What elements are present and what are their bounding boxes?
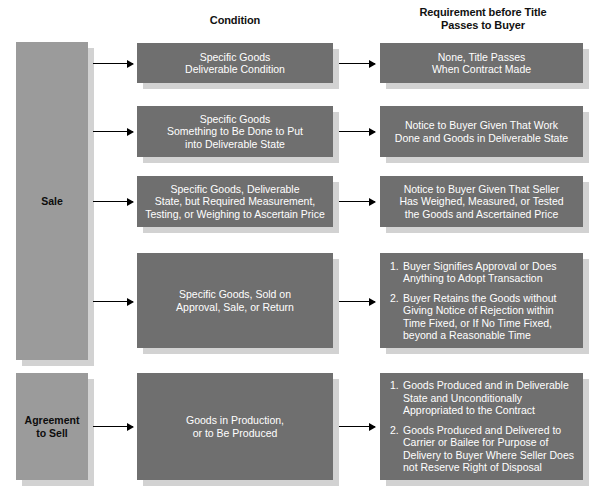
column-header-requirement-line2: Passes to Buyer <box>386 19 580 32</box>
arrow-category-to-condition-4 <box>93 301 133 302</box>
requirement-line: Notice to Buyer Given That Work <box>395 119 568 132</box>
requirement-list-item: 1. Goods Produced and in Deliverable Sta… <box>390 379 575 417</box>
requirement-list-item: 1. Buyer Signifies Approval or Does Anyt… <box>390 260 575 285</box>
condition-line: Testing, or Weighing to Ascertain Price <box>145 208 325 221</box>
requirement-text-3: Notice to Buyer Given That Seller Has We… <box>393 183 569 221</box>
column-header-condition: Condition <box>170 14 300 27</box>
arrow-category-to-condition-5 <box>93 426 133 427</box>
condition-line: Specific Goods, Sold on <box>176 288 294 301</box>
condition-box-1: Specific Goods Deliverable Condition <box>137 43 333 83</box>
condition-line: State, but Required Measurement, <box>145 195 325 208</box>
condition-text-1: Specific Goods Deliverable Condition <box>179 51 291 76</box>
condition-line: Something to Be Done to Put <box>167 125 303 138</box>
condition-text-4: Specific Goods, Sold on Approval, Sale, … <box>170 288 300 313</box>
list-item-number: 2. <box>390 292 399 305</box>
condition-line: Specific Goods <box>167 113 303 126</box>
requirement-list-item: 2. Buyer Retains the Goods without Givin… <box>390 292 575 342</box>
condition-line: Specific Goods, Deliverable <box>145 183 325 196</box>
condition-line: Goods in Production, <box>186 414 284 427</box>
condition-line: or to Be Produced <box>186 427 284 440</box>
category-label-agreement-to-sell: Agreement to Sell <box>19 414 86 439</box>
requirement-list-item: 2. Goods Produced and Delivered to Carri… <box>390 424 575 474</box>
arrow-condition-to-requirement-2 <box>339 131 375 132</box>
requirement-box-2: Notice to Buyer Given That Work Done and… <box>380 106 583 157</box>
condition-line: Specific Goods <box>185 51 285 64</box>
requirement-line: Notice to Buyer Given That Seller <box>399 183 563 196</box>
list-item-number: 1. <box>390 260 399 273</box>
condition-text-2: Specific Goods Something to Be Done to P… <box>161 113 309 151</box>
category-box-agreement-to-sell: Agreement to Sell <box>16 373 88 480</box>
arrow-category-to-condition-3 <box>93 201 133 202</box>
requirement-text-4: 1. Buyer Signifies Approval or Does Anyt… <box>380 260 583 342</box>
requirement-list-5: 1. Goods Produced and in Deliverable Sta… <box>390 379 575 474</box>
column-header-requirement: Requirement before Title Passes to Buyer <box>386 6 580 32</box>
list-item-text: Buyer Signifies Approval or Does Anythin… <box>403 260 557 285</box>
flowchart-diagram: Condition Requirement before Title Passe… <box>0 0 602 496</box>
arrow-condition-to-requirement-3 <box>339 201 375 202</box>
arrow-category-to-condition-1 <box>93 63 133 64</box>
list-item-number: 1. <box>390 379 399 392</box>
category-label-line2: to Sell <box>25 427 80 440</box>
requirement-list-4: 1. Buyer Signifies Approval or Does Anyt… <box>390 260 575 342</box>
condition-box-3: Specific Goods, Deliverable State, but R… <box>137 176 333 227</box>
condition-text-3: Specific Goods, Deliverable State, but R… <box>139 183 331 221</box>
requirement-box-5: 1. Goods Produced and in Deliverable Sta… <box>380 373 583 480</box>
list-item-text: Goods Produced and Delivered to Carrier … <box>403 424 574 474</box>
requirement-line: When Contract Made <box>432 63 531 76</box>
requirement-line: Done and Goods in Deliverable State <box>395 132 568 145</box>
list-item-text: Goods Produced and in Deliverable State … <box>403 379 569 416</box>
condition-box-4: Specific Goods, Sold on Approval, Sale, … <box>137 253 333 348</box>
list-item-text: Buyer Retains the Goods without Giving N… <box>403 292 557 342</box>
condition-box-5: Goods in Production, or to Be Produced <box>137 373 333 480</box>
requirement-text-1: None, Title Passes When Contract Made <box>426 51 537 76</box>
category-label-sale: Sale <box>35 195 69 208</box>
requirement-line: Has Weighed, Measured, or Tested <box>399 195 563 208</box>
condition-text-5: Goods in Production, or to Be Produced <box>180 414 290 439</box>
requirement-text-5: 1. Goods Produced and in Deliverable Sta… <box>380 379 583 474</box>
arrow-condition-to-requirement-5 <box>339 426 375 427</box>
requirement-box-4: 1. Buyer Signifies Approval or Does Anyt… <box>380 253 583 348</box>
requirement-box-3: Notice to Buyer Given That Seller Has We… <box>380 176 583 227</box>
condition-line: Approval, Sale, or Return <box>176 301 294 314</box>
requirement-text-2: Notice to Buyer Given That Work Done and… <box>389 119 574 144</box>
condition-line: into Deliverable State <box>167 138 303 151</box>
arrow-category-to-condition-2 <box>93 131 133 132</box>
column-header-requirement-line1: Requirement before Title <box>386 6 580 19</box>
arrow-condition-to-requirement-4 <box>339 301 375 302</box>
requirement-box-1: None, Title Passes When Contract Made <box>380 43 583 83</box>
condition-box-2: Specific Goods Something to Be Done to P… <box>137 106 333 157</box>
category-box-sale: Sale <box>16 42 88 360</box>
condition-line: Deliverable Condition <box>185 63 285 76</box>
requirement-line: None, Title Passes <box>432 51 531 64</box>
arrow-condition-to-requirement-1 <box>339 63 375 64</box>
requirement-line: the Goods and Ascertained Price <box>399 208 563 221</box>
category-label-line1: Agreement <box>25 414 80 427</box>
list-item-number: 2. <box>390 424 399 437</box>
